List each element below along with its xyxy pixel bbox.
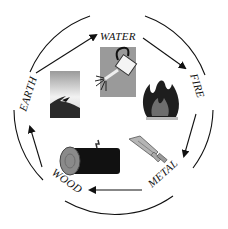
watering-can-icon [95, 47, 137, 97]
arrow-water-to-fire [143, 38, 185, 68]
sand-dune-icon [50, 71, 80, 118]
flame-icon [143, 81, 179, 120]
label-earth: EARTH [16, 74, 39, 113]
arrow-wood-to-earth [30, 127, 42, 167]
sword-icon [129, 136, 167, 163]
five-elements-diagram: WATER FIRE METAL WOOD EARTH [0, 0, 228, 229]
outer-circle [14, 16, 213, 214]
label-fire: FIRE [188, 71, 207, 99]
label-metal: METAL [145, 157, 180, 190]
log-icon [60, 140, 120, 175]
label-water: WATER [100, 30, 136, 42]
arrow-fire-to-metal [184, 114, 196, 156]
arrow-earth-to-water [36, 35, 96, 73]
